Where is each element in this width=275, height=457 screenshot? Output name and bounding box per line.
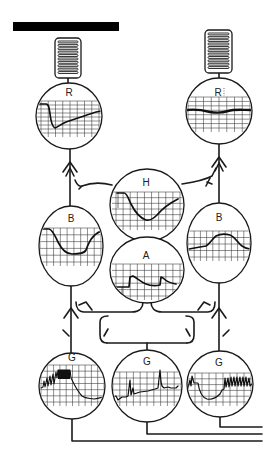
header-bar [13,22,119,31]
scope-label: R [65,87,72,98]
neural-circuit-diagram: R R H B B A [0,0,275,457]
h-to-right [182,168,216,184]
trace-G-left-burst [58,370,70,379]
scope-label: G [143,356,151,367]
scope-label: B [216,212,223,223]
scope-label: G [68,352,76,363]
coil-windings [58,33,229,73]
output-line-g-left [72,418,262,441]
output-line-g-right [220,416,262,427]
scope-label: G [215,357,223,368]
scope-A: A [110,237,184,303]
scope-R-right: R [184,78,254,144]
scope-label: A [143,250,150,261]
scope-R-left: R [36,83,103,149]
scope-G-left: G [37,352,108,419]
h-to-left [75,180,112,186]
scope-label: H [142,177,149,188]
scope-G-middle: G [109,350,185,422]
scope-B-left: B [36,206,105,286]
scope-label: R [214,87,221,98]
scope-B-right: B [184,203,254,283]
scope-label: B [68,213,75,224]
a-to-left [76,302,143,312]
scope-H: H [110,169,184,241]
scope-G-right: G [184,351,255,417]
